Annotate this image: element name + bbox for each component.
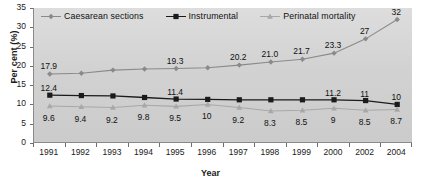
y-tick-label: 15 xyxy=(4,79,26,89)
data-point-marker xyxy=(268,59,273,64)
legend-label: Caesarean sections xyxy=(64,11,144,21)
series-3 xyxy=(47,102,400,114)
x-tick-mark xyxy=(223,143,224,147)
data-label: 11.4 xyxy=(160,87,190,97)
data-label: 21.7 xyxy=(286,46,316,56)
legend-marker-icon xyxy=(41,16,61,17)
x-tick-mark xyxy=(349,143,350,147)
data-label: 19.3 xyxy=(160,56,190,66)
x-tick-mark xyxy=(317,143,318,147)
x-tick-label: 1995 xyxy=(158,147,192,157)
data-point-marker xyxy=(174,96,179,101)
x-tick-mark xyxy=(33,143,34,147)
data-label: 11.2 xyxy=(318,88,348,98)
y-tick-label: 5 xyxy=(4,118,26,128)
data-point-marker xyxy=(237,97,242,102)
data-point-marker xyxy=(79,70,84,75)
x-axis-title: Year xyxy=(0,168,421,178)
data-point-marker xyxy=(267,13,273,18)
data-label: 21.0 xyxy=(255,49,285,59)
legend-label: Perinatal mortality xyxy=(283,11,355,21)
data-point-marker xyxy=(173,66,178,71)
data-label: 9.5 xyxy=(160,113,190,123)
series-line xyxy=(50,104,397,111)
data-point-marker xyxy=(395,102,400,107)
x-tick-label: 1996 xyxy=(190,147,224,157)
x-tick-label: 2000 xyxy=(316,147,350,157)
data-point-marker xyxy=(47,93,52,98)
data-label: 32 xyxy=(381,7,411,17)
data-label: 9.8 xyxy=(129,112,159,122)
data-point-marker xyxy=(268,97,273,102)
y-tick-label: 25 xyxy=(4,41,26,51)
data-point-marker xyxy=(142,66,147,71)
legend-item-3[interactable]: Perinatal mortality xyxy=(260,11,355,21)
x-tick-label: 1998 xyxy=(253,147,287,157)
data-label: 9.2 xyxy=(97,115,127,125)
data-point-marker xyxy=(363,98,368,103)
data-point-marker xyxy=(79,93,84,98)
data-point-marker xyxy=(300,97,305,102)
data-label: 8.3 xyxy=(255,118,285,128)
data-point-marker xyxy=(47,71,52,76)
legend-item-2[interactable]: Instrumental xyxy=(166,11,239,21)
data-point-marker xyxy=(48,13,53,18)
x-tick-mark xyxy=(411,143,412,147)
y-tick-label: 10 xyxy=(4,98,26,108)
data-point-marker xyxy=(142,95,147,100)
data-label: 27 xyxy=(350,26,380,36)
x-tick-mark xyxy=(286,143,287,147)
data-point-marker xyxy=(205,65,210,70)
x-tick-mark xyxy=(65,143,66,147)
x-tick-mark xyxy=(191,143,192,147)
data-label: 12.4 xyxy=(34,83,64,93)
data-label: 23.3 xyxy=(318,40,348,50)
x-tick-mark xyxy=(96,143,97,147)
data-label: 10 xyxy=(192,111,222,121)
x-tick-mark xyxy=(159,143,160,147)
data-point-marker xyxy=(110,67,115,72)
data-label: 9.4 xyxy=(65,114,95,124)
data-point-marker xyxy=(331,97,336,102)
data-label: 8.5 xyxy=(286,117,316,127)
x-tick-label: 1992 xyxy=(63,147,97,157)
data-point-marker xyxy=(300,57,305,62)
legend-marker-icon xyxy=(260,16,280,17)
data-label: 9.6 xyxy=(34,113,64,123)
legend-marker-icon xyxy=(166,16,186,17)
data-point-marker xyxy=(331,50,336,55)
data-label: 11 xyxy=(350,89,380,99)
y-tick-label: 30 xyxy=(4,21,26,31)
data-point-marker xyxy=(237,62,242,67)
data-label: 9 xyxy=(318,115,348,125)
y-tick-label: 0 xyxy=(4,137,26,147)
x-tick-label: 1991 xyxy=(32,147,66,157)
y-tick-label: 35 xyxy=(4,2,26,12)
data-point-marker xyxy=(363,36,368,41)
x-tick-label: 1994 xyxy=(127,147,161,157)
legend: Caesarean sectionsInstrumentalPerinatal … xyxy=(41,11,355,21)
data-label: 20.2 xyxy=(223,52,253,62)
data-point-marker xyxy=(395,17,400,22)
legend-label: Instrumental xyxy=(189,11,239,21)
x-tick-label: 2004 xyxy=(379,147,413,157)
data-label: 8.7 xyxy=(381,116,411,126)
data-label: 8.5 xyxy=(350,117,380,127)
data-point-marker xyxy=(110,93,115,98)
x-tick-label: 1997 xyxy=(221,147,255,157)
data-label: 9.2 xyxy=(223,115,253,125)
data-label: 17.9 xyxy=(34,61,64,71)
x-tick-mark xyxy=(254,143,255,147)
x-tick-label: 1993 xyxy=(95,147,129,157)
legend-item-1[interactable]: Caesarean sections xyxy=(41,11,144,21)
x-tick-label: 2002 xyxy=(348,147,382,157)
x-tick-label: 1999 xyxy=(284,147,318,157)
x-tick-mark xyxy=(128,143,129,147)
y-tick-label: 20 xyxy=(4,60,26,70)
data-label: 10 xyxy=(381,92,411,102)
perinatal-outcomes-line-chart: Per cent (%) Year 05101520253035 1991199… xyxy=(0,0,421,187)
data-point-marker xyxy=(173,13,178,18)
data-point-marker xyxy=(205,97,210,102)
x-tick-mark xyxy=(380,143,381,147)
